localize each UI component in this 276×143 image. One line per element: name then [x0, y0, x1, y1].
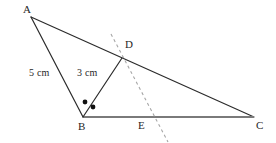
angle-dot-abd — [83, 100, 88, 105]
vertex-label-a: A — [23, 4, 31, 15]
geometry-diagram: A B C D E 5 cm 3 cm — [0, 0, 276, 143]
measure-label-ab: 5 cm — [29, 68, 50, 78]
measure-label-bd: 3 cm — [77, 68, 98, 78]
angle-dot-dbc — [91, 105, 96, 110]
vertex-label-c: C — [256, 120, 263, 131]
vertex-label-d: D — [125, 39, 133, 50]
vertex-label-b: B — [78, 121, 85, 132]
vertex-label-e: E — [138, 120, 145, 131]
segment-ac — [31, 17, 254, 117]
